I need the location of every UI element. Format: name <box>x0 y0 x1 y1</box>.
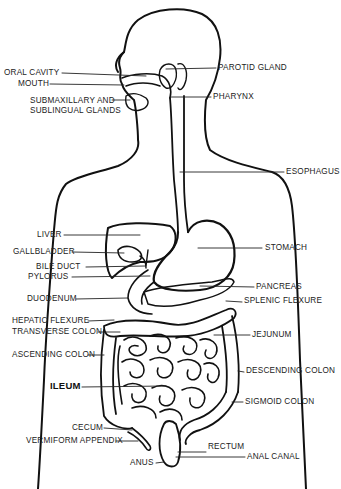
label-bile-duct: BILE DUCT <box>36 262 81 272</box>
label-mouth: MOUTH <box>18 79 49 89</box>
ascending-colon-shape <box>101 330 132 429</box>
label-pylorus: PYLORUS <box>28 272 69 282</box>
gallbladder-shape <box>118 246 142 262</box>
label-submaxillary: SUBMAXILLARY AND <box>30 96 115 106</box>
label-oral-cavity: ORAL CAVITY <box>4 68 59 78</box>
label-transverse-colon: TRANSVERSE COLON <box>12 327 102 337</box>
descending-colon-shape <box>222 316 239 392</box>
label-splenic-flexure: SPLENIC FLEXURE <box>244 296 322 306</box>
appendix-shape <box>128 428 151 450</box>
small-intestine-coils <box>118 334 219 420</box>
rectum-shape <box>160 421 181 467</box>
esophagus-tube <box>170 96 188 232</box>
label-ascending-colon: ASCENDING COLON <box>12 350 95 360</box>
label-sigmoid-colon: SIGMOID COLON <box>245 397 314 407</box>
label-jejunum: JEJUNUM <box>252 330 292 340</box>
label-pancreas: PANCREAS <box>256 282 302 292</box>
label-duodenum: DUODENUM <box>27 294 77 304</box>
label-cecum: CECUM <box>72 423 103 433</box>
label-parotid-gland: PAROTID GLAND <box>218 63 287 73</box>
label-ileum: ILEUM <box>50 381 81 391</box>
liver-shape <box>106 223 176 278</box>
label-gallbladder: GALLBLADDER <box>13 247 75 257</box>
label-hepatic-flexure: HEPATIC FLEXURE <box>12 316 89 326</box>
label-esophagus: ESOPHAGUS <box>286 167 340 177</box>
label-stomach: STOMACH <box>265 243 307 253</box>
label-vermiform-appendix: VERMIFORM APPENDIX <box>26 436 123 446</box>
label-pharynx: PHARYNX <box>213 92 254 102</box>
transverse-colon-shape <box>104 309 236 337</box>
label-liver: LIVER <box>37 230 62 240</box>
label-rectum: RECTUM <box>208 442 244 452</box>
sigmoid-colon-shape <box>180 392 238 444</box>
label-anus: ANUS <box>130 458 154 468</box>
label-descending-colon: DESCENDING COLON <box>246 366 335 376</box>
label-sublingual: SUBLINGUAL GLANDS <box>30 106 121 116</box>
label-anal-canal: ANAL CANAL <box>247 452 300 462</box>
